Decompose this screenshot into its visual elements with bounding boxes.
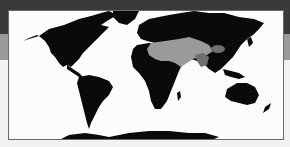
central-america (67, 65, 83, 77)
world-map (8, 10, 284, 140)
madagascar (177, 91, 181, 101)
highlight-region-tibet (211, 45, 225, 53)
japan (247, 37, 253, 47)
alaska-tail (23, 35, 39, 41)
new-zealand (263, 103, 271, 113)
southeast-asia (223, 69, 245, 79)
australia (225, 83, 259, 105)
world-map-graphic (9, 11, 284, 140)
north-america (39, 11, 117, 67)
south-america (77, 75, 113, 129)
antarctica (57, 131, 219, 140)
greenland (113, 11, 139, 25)
